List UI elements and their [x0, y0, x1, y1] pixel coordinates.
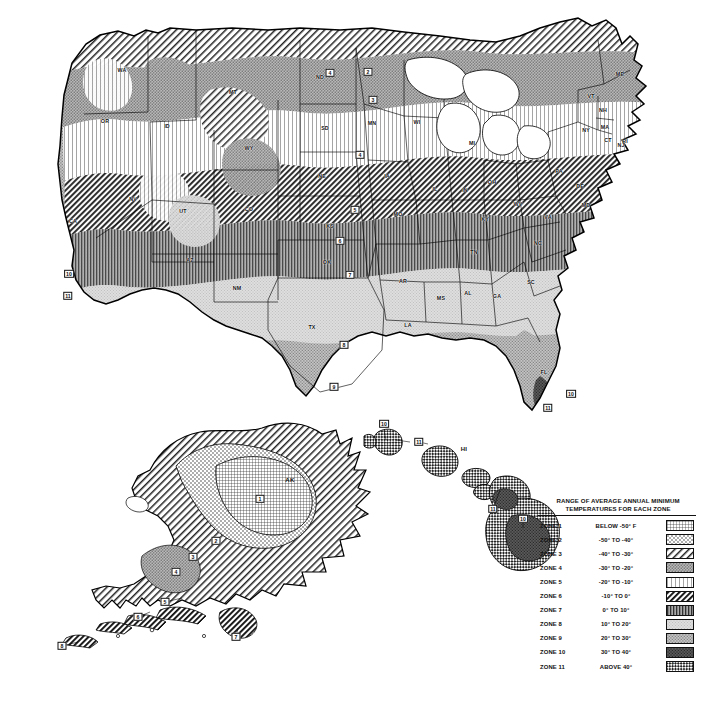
legend-swatch-cell [654, 533, 696, 547]
zone-marker-hawaii-10: 10 [518, 515, 528, 523]
state-label-ma: MA [601, 124, 610, 130]
state-label-ar: AR [399, 278, 407, 284]
zone-marker-conus-7: 7 [346, 271, 355, 279]
state-label-ky: KY [481, 216, 489, 222]
legend-zone-range: -40° TO -30° [578, 547, 654, 561]
state-label-ia: IA [384, 173, 390, 179]
legend-row: ZONE 70° TO 10° [538, 603, 696, 617]
legend-zone-range: 20° TO 30° [578, 631, 654, 645]
legend-row: ZONE 1030° TO 40° [538, 645, 696, 659]
zone-marker-alaska-7: 7 [232, 633, 241, 641]
state-label-nd: ND [316, 74, 324, 80]
legend-heading: RANGE OF AVERAGE ANNUAL MINIMUM TEMPERAT… [538, 497, 698, 514]
zone-marker-conus-10: 10 [566, 390, 576, 398]
zone-marker-alaska-6: 6 [134, 613, 143, 621]
state-label-va: VA [544, 214, 551, 220]
state-label-in: IN [462, 187, 468, 193]
state-label-ms: MS [437, 295, 445, 301]
legend-zone-name: ZONE 5 [538, 575, 578, 589]
legend-swatch-dots-coarse [666, 534, 694, 545]
legend-row: ZONE 3-40° TO -30° [538, 547, 696, 561]
state-label-tx: TX [308, 324, 315, 330]
legend-zone-name: ZONE 9 [538, 631, 578, 645]
legend-zone-range: 0° TO 10° [578, 603, 654, 617]
hardiness-zone-map-page: WAORIDMTWYNVUTCAAZNMCONDSDNEKSOKTXMNIAMO… [0, 0, 702, 701]
state-label-de: DE [576, 183, 584, 189]
alaska-label: AK [285, 477, 294, 483]
zone-marker-conus-4: 4 [326, 69, 335, 77]
state-label-il: IL [432, 186, 437, 192]
state-label-vt: VT [587, 93, 594, 99]
zone-marker-hawaii-10: 10 [379, 420, 389, 428]
legend-zone-range: ABOVE 40° [578, 660, 654, 674]
state-label-wa: WA [118, 67, 127, 73]
state-label-nm: NM [233, 285, 242, 291]
legend-row: ZONE 6-10° TO 0° [538, 589, 696, 603]
state-label-sd: SD [321, 125, 329, 131]
legend-swatch-hatch-back-wide [666, 548, 694, 559]
zone-marker-hawaii-11: 11 [414, 438, 423, 446]
state-label-nv: NV [129, 196, 137, 202]
legend-zone-range: -20° TO -10° [578, 575, 654, 589]
state-label-al: AL [464, 290, 471, 296]
legend-zone-name: ZONE 4 [538, 561, 578, 575]
legend-swatch-cell [654, 561, 696, 575]
zone-marker-hawaii-11: 11 [488, 505, 497, 513]
legend-swatch-vert-light [666, 577, 694, 588]
state-label-or: OR [101, 118, 109, 124]
legend-swatch-cell [654, 660, 696, 674]
state-label-mn: MN [368, 120, 377, 126]
state-label-nc: NC [534, 240, 542, 246]
state-label-ga: GA [493, 293, 501, 299]
state-label-nh: NH [599, 107, 607, 113]
legend-swatch-cell [654, 547, 696, 561]
legend-swatch-grid-fine [666, 520, 694, 531]
legend-zone-name: ZONE 1 [538, 519, 578, 533]
zone-marker-conus-8: 8 [340, 341, 349, 349]
state-label-wy: WY [245, 145, 254, 151]
legend-heading-line1: RANGE OF AVERAGE ANNUAL MINIMUM [556, 497, 679, 504]
legend: RANGE OF AVERAGE ANNUAL MINIMUM TEMPERAT… [538, 497, 698, 674]
legend-swatch-cell [654, 589, 696, 603]
state-label-md: MD [582, 202, 591, 208]
state-label-co: CO [245, 206, 253, 212]
legend-swatch-stipple-mid [666, 562, 694, 573]
zone-marker-conus-2: 2 [364, 68, 373, 76]
zone-marker-alaska-4: 4 [172, 568, 181, 576]
zone-marker-alaska-8: 8 [58, 642, 67, 650]
state-label-wi: WI [414, 119, 421, 125]
state-label-ca: CA [69, 218, 77, 224]
legend-row: ZONE 5-20° TO -10° [538, 575, 696, 589]
legend-zone-name: ZONE 8 [538, 617, 578, 631]
legend-swatch-dark-solid [666, 647, 694, 658]
legend-zone-name: ZONE 6 [538, 589, 578, 603]
legend-heading-line2: TEMPERATURES FOR EACH ZONE [540, 505, 696, 513]
legend-zone-range: 10° TO 20° [578, 617, 654, 631]
legend-swatch-stipple-light [666, 619, 694, 630]
state-label-ut: UT [179, 208, 186, 214]
state-label-ny: NY [582, 127, 590, 133]
state-label-ct: CT [604, 137, 611, 143]
corner-mark: r [672, 660, 674, 666]
legend-swatch-stipple-mid2 [666, 633, 694, 644]
zone-marker-conus-4: 4 [356, 151, 365, 159]
state-label-fl: FL [541, 369, 548, 375]
state-label-mo: MO [394, 211, 403, 217]
legend-row: ZONE 920° TO 30° [538, 631, 696, 645]
zone-marker-conus-9: 9 [330, 383, 339, 391]
zone-marker-alaska-1: 1 [256, 495, 265, 503]
state-label-la: LA [404, 322, 411, 328]
legend-swatch-cell [654, 575, 696, 589]
legend-swatch-cell [654, 519, 696, 533]
zone-marker-conus-11: 11 [63, 292, 72, 300]
legend-zone-name: ZONE 3 [538, 547, 578, 561]
state-label-ri: RI [622, 138, 628, 144]
legend-swatch-vert-bold [666, 605, 694, 616]
state-label-ok: OK [323, 259, 331, 265]
legend-zone-range: -30° TO -20° [578, 561, 654, 575]
legend-swatch-cell [654, 645, 696, 659]
state-label-tn: TN [470, 249, 477, 255]
state-label-mi: MI [469, 140, 475, 146]
legend-zone-range: -10° TO 0° [578, 589, 654, 603]
legend-row: ZONE 1BELOW -50° F [538, 519, 696, 533]
